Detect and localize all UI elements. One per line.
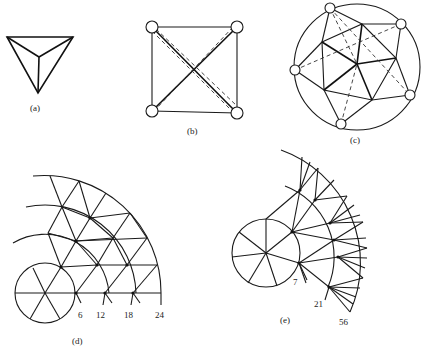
ring-label-7: 7 — [293, 277, 298, 287]
ring-label-18: 18 — [124, 310, 134, 320]
panel-a-tetrahedron: (a) — [7, 37, 73, 113]
panel-d-graded-mesh: 6 12 18 24 (d) — [13, 175, 165, 346]
panel-b-square: (b) — [146, 21, 243, 136]
panel-e-fan-mesh: 7 21 56 (e) — [232, 150, 367, 327]
caption-c: (c) — [350, 135, 360, 145]
figure-canvas: (a) (b) — [0, 0, 425, 350]
ring-label-12: 12 — [96, 310, 105, 320]
ring-label-6: 6 — [78, 310, 83, 320]
ring-label-56: 56 — [339, 317, 349, 327]
ring-label-24: 24 — [155, 310, 165, 320]
caption-d: (d) — [72, 336, 83, 346]
panel-c-circle-mesh: (c) — [290, 3, 420, 145]
ring-label-21: 21 — [314, 299, 323, 309]
caption-e: (e) — [280, 315, 290, 325]
caption-a: (a) — [30, 103, 40, 113]
caption-b: (b) — [187, 126, 198, 136]
